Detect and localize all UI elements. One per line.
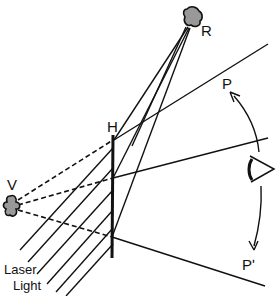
label-hologram: H [107,118,118,135]
diffracted-rays [112,44,268,286]
hologram-plate [112,135,113,258]
virtual-image-rays [18,140,113,237]
label-virtual-image: V [7,176,17,193]
blob-object-icon [3,196,19,216]
real-image-rays [112,27,190,237]
blob-object-icon [184,7,203,27]
label-light: Light [13,278,42,293]
label-viewpoint-upper: P [222,75,232,92]
label-laser: Laser [4,262,37,277]
holography-diagram: H R V P Pʹ Laser Light [0,0,276,296]
label-viewpoint-lower: Pʹ [242,256,255,273]
viewpoint-arc-arrows [230,92,261,250]
label-real-image: R [201,22,212,39]
eye-icon [249,156,274,182]
